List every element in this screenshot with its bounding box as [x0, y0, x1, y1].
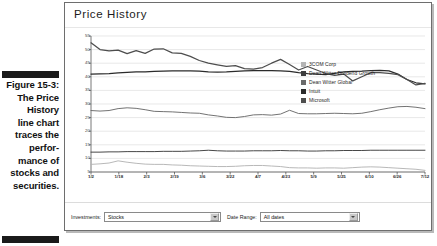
legend-item[interactable]: Microsoft — [301, 97, 427, 103]
caption-line: The Price — [0, 92, 59, 105]
x-axis-tick-label: 1/2 — [80, 174, 102, 179]
legend-color-swatch — [301, 98, 306, 103]
caption-line: History — [0, 104, 59, 117]
investments-value: Stocks — [105, 214, 210, 220]
x-axis-tick-label: 5/25 — [331, 174, 353, 179]
figure-number: Figure 15-3: — [0, 79, 59, 92]
legend-item-label: Dean Witter Global — [309, 79, 352, 85]
figure-caption-text: Figure 15-3: The Price History line char… — [0, 79, 59, 192]
investments-label: Investments: — [71, 214, 101, 220]
legend-item[interactable]: Dean Witter Global — [301, 79, 427, 85]
chart-toolbar: Investments: Stocks Date Range: All date… — [65, 206, 431, 228]
page-title: Price History — [74, 8, 147, 20]
chevron-down-icon[interactable] — [349, 213, 358, 221]
legend-color-swatch — [301, 80, 306, 85]
chevron-down-icon[interactable] — [210, 213, 219, 221]
x-axis-tick-label: 3/6 — [191, 174, 213, 179]
legend-item-label: Dean Witter Dividend Growth — [309, 70, 375, 76]
date-range-value: All dates — [261, 214, 349, 220]
date-range-label: Date Range: — [227, 214, 257, 220]
x-axis-tick-label: 2/19 — [164, 174, 186, 179]
x-axis-tick-label: 6/26 — [386, 174, 408, 179]
caption-line: traces the — [0, 129, 59, 142]
x-axis-tick-label: 2/3 — [136, 174, 158, 179]
legend-color-swatch — [301, 71, 306, 76]
caption-line: perfor- — [0, 142, 59, 155]
x-axis: 1/21/182/32/193/63/224/74/235/95/256/106… — [65, 28, 431, 200]
x-axis-tick-label: 1/18 — [108, 174, 130, 179]
x-axis-tick-label: 7/12 — [414, 174, 436, 179]
legend-color-swatch — [301, 89, 306, 94]
legend-item[interactable]: Intuit — [301, 88, 427, 94]
caption-rule-top — [2, 71, 59, 78]
caption-line: mance of — [0, 155, 59, 168]
date-range-dropdown[interactable]: All dates — [260, 212, 360, 222]
investments-dropdown[interactable]: Stocks — [104, 212, 221, 222]
toolbar-divider — [65, 202, 431, 203]
legend-item[interactable]: Dean Witter Dividend Growth — [301, 70, 427, 76]
x-axis-tick-label: 5/9 — [303, 174, 325, 179]
x-axis-tick-label: 3/22 — [219, 174, 241, 179]
x-axis-tick-label: 4/23 — [275, 174, 297, 179]
price-history-window: Price History 555045403530252015105 1/21… — [64, 2, 432, 231]
legend-item-label: Intuit — [309, 88, 320, 94]
caption-line: line chart — [0, 117, 59, 130]
price-history-chart: 555045403530252015105 1/21/182/32/193/63… — [65, 28, 431, 200]
legend-item[interactable]: 3COM Corp — [301, 61, 427, 67]
x-axis-tick-label: 4/7 — [247, 174, 269, 179]
chart-legend: 3COM CorpDean Witter Dividend GrowthDean… — [301, 61, 427, 106]
figure-caption-block: Figure 15-3: The Price History line char… — [0, 0, 62, 246]
caption-line: securities. — [0, 180, 59, 193]
legend-item-label: Microsoft — [309, 97, 330, 103]
caption-rule-bottom — [2, 236, 59, 243]
legend-item-label: 3COM Corp — [309, 61, 336, 67]
legend-color-swatch — [301, 62, 306, 67]
caption-line: stocks and — [0, 167, 59, 180]
x-axis-tick-label: 6/10 — [358, 174, 380, 179]
